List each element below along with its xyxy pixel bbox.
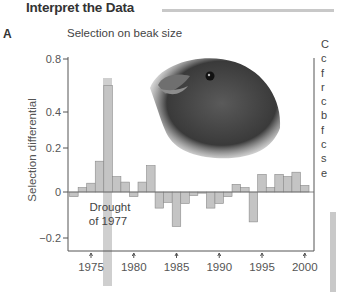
x-tick-label: 2000 bbox=[292, 261, 318, 273]
bar-1973 bbox=[70, 192, 79, 197]
x-axis-ticks: 197519801985199019952000 bbox=[78, 253, 317, 273]
bar-1992 bbox=[232, 184, 241, 192]
bar-1985 bbox=[172, 192, 181, 227]
bar-1987 bbox=[189, 192, 198, 195]
right-column-text-fragment: C c f r c b f c s e bbox=[321, 37, 340, 180]
bar-1999 bbox=[292, 172, 301, 192]
y-tick-label: 0.4 bbox=[46, 106, 61, 118]
bar-1974 bbox=[78, 188, 87, 192]
bar-1978 bbox=[112, 177, 121, 192]
bar-1981 bbox=[138, 182, 147, 192]
bar-1997 bbox=[275, 174, 284, 192]
x-tick-label: 1985 bbox=[164, 261, 190, 273]
x-tick-label: 1995 bbox=[249, 261, 275, 273]
bar-1977 bbox=[104, 86, 113, 193]
bar-1991 bbox=[224, 192, 233, 197]
bar-1994 bbox=[249, 192, 258, 222]
bar-1990 bbox=[215, 192, 224, 204]
bar-2000 bbox=[300, 185, 309, 192]
bar-1979 bbox=[121, 182, 130, 192]
bar-1989 bbox=[206, 192, 215, 208]
bar-1995 bbox=[258, 174, 267, 192]
y-tick-label: −0.2 bbox=[39, 232, 61, 244]
y-tick-label: 0.8 bbox=[46, 53, 61, 65]
bar-1993 bbox=[241, 188, 250, 192]
y-tick-label: 0 bbox=[55, 186, 61, 198]
x-tick-label: 1975 bbox=[78, 261, 104, 273]
annotation-line-1: Drought bbox=[90, 201, 132, 213]
bar-1983 bbox=[155, 192, 164, 208]
y-axis-ticks: 0.80.40.20−0.2 bbox=[39, 53, 68, 244]
bar-1996 bbox=[266, 188, 275, 192]
bar-1998 bbox=[283, 177, 292, 192]
bar-1980 bbox=[129, 192, 138, 197]
bar-1986 bbox=[181, 192, 190, 204]
finch-head-illustration bbox=[150, 58, 280, 158]
bar-1975 bbox=[87, 183, 96, 192]
right-sidebar-box bbox=[330, 212, 336, 292]
y-tick-label: 0.2 bbox=[46, 142, 61, 154]
bar-1976 bbox=[95, 161, 104, 192]
bar-1984 bbox=[164, 192, 173, 202]
x-tick-label: 1990 bbox=[206, 261, 232, 273]
bar-1982 bbox=[147, 166, 156, 192]
annotation-line-2: of 1977 bbox=[89, 215, 127, 227]
y-axis-label: Selection differential bbox=[26, 98, 38, 201]
x-tick-label: 1980 bbox=[121, 261, 147, 273]
